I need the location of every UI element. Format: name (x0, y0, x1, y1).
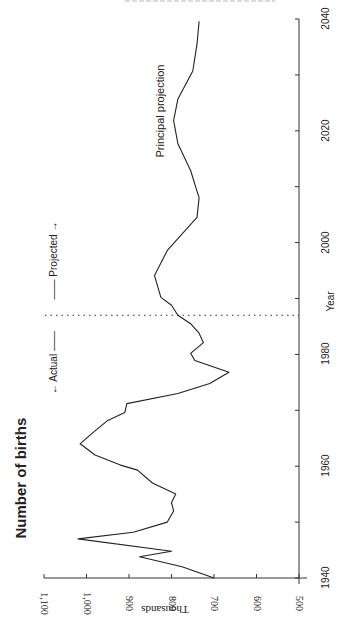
year-tick-label: 1980 (320, 337, 331, 371)
year-tick-label: 2040 (320, 2, 331, 36)
chart-title: Number of births (12, 419, 29, 539)
annotation-projected: —— Projected → (48, 211, 59, 311)
value-tick-label: 900 (124, 587, 135, 621)
year-tick-label: 1940 (320, 561, 331, 595)
value-tick-label: 1,100 (39, 587, 50, 621)
value-tick-label: 600 (251, 587, 262, 621)
y-axis-label: Thousands (125, 604, 205, 616)
x-axis-label: Year (325, 277, 336, 327)
year-tick-label: 2000 (320, 225, 331, 259)
chart-axes (44, 19, 307, 584)
year-tick-label: 1960 (320, 449, 331, 483)
annotation-actual: ← Actual —— (48, 313, 59, 413)
value-tick-label: 1,000 (81, 587, 92, 621)
value-tick-label: 500 (294, 587, 305, 621)
value-tick-label: 700 (209, 587, 220, 621)
value-tick-label: 800 (166, 587, 177, 621)
year-tick-label: 2020 (320, 113, 331, 147)
series-label-principal-projection: Principal projection (154, 61, 166, 161)
